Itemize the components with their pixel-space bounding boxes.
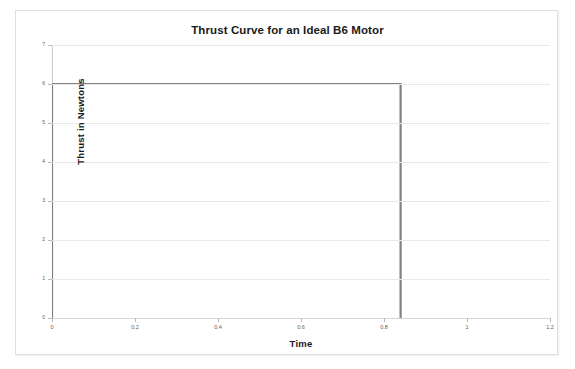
- x-tick-mark: [550, 318, 551, 322]
- y-tick-label: 5: [21, 120, 45, 125]
- x-tick-mark: [301, 318, 302, 322]
- gridline-horizontal: [52, 201, 550, 202]
- x-tick-label: 0.2: [115, 324, 155, 330]
- gridline-horizontal: [52, 45, 550, 46]
- x-tick-label: 1: [447, 324, 487, 330]
- x-tick-label: 0: [32, 324, 72, 330]
- gridline-horizontal: [52, 162, 550, 163]
- x-tick-label: 0.8: [364, 324, 404, 330]
- gridline-horizontal: [52, 279, 550, 280]
- y-tick-mark: [48, 45, 52, 46]
- y-tick-label: 0: [21, 315, 45, 320]
- y-tick-mark: [48, 201, 52, 202]
- gridline-horizontal: [52, 84, 550, 85]
- y-tick-label: 6: [21, 81, 45, 86]
- x-tick-mark: [52, 318, 53, 322]
- x-tick-mark: [135, 318, 136, 322]
- y-tick-label: 1: [21, 276, 45, 281]
- x-tick-label: 0.6: [281, 324, 321, 330]
- y-tick-mark: [48, 279, 52, 280]
- y-tick-label: 2: [21, 237, 45, 242]
- y-tick-label: 4: [21, 159, 45, 164]
- chart-title: Thrust Curve for an Ideal B6 Motor: [16, 24, 559, 36]
- x-tick-mark: [218, 318, 219, 322]
- x-axis-title: Time: [52, 338, 550, 349]
- y-axis-title: Thrust in Newtons: [75, 52, 86, 192]
- y-tick-label: 3: [21, 198, 45, 203]
- plot-area: [52, 45, 550, 318]
- y-tick-mark: [48, 123, 52, 124]
- chart-container: Thrust Curve for an Ideal B6 Motor 01234…: [15, 10, 558, 355]
- y-tick-label: 7: [21, 42, 45, 47]
- x-tick-mark: [384, 318, 385, 322]
- gridline-horizontal: [52, 240, 550, 241]
- y-tick-mark: [48, 84, 52, 85]
- x-tick-mark: [467, 318, 468, 322]
- gridline-horizontal: [52, 123, 550, 124]
- y-tick-mark: [48, 240, 52, 241]
- y-tick-mark: [48, 162, 52, 163]
- thrust-curve-series: [52, 45, 550, 318]
- x-tick-label: 0.4: [198, 324, 238, 330]
- x-tick-label: 1.2: [530, 324, 570, 330]
